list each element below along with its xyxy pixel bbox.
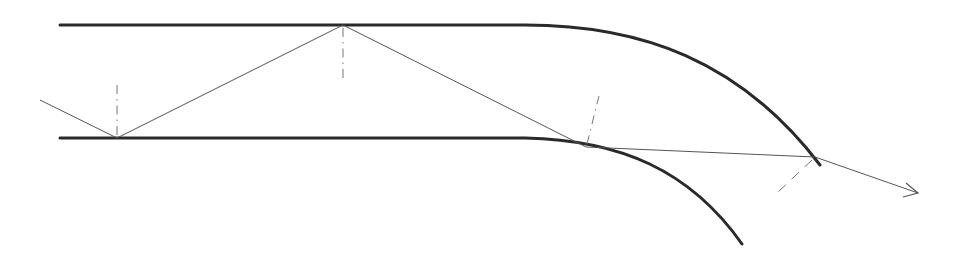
waveguide-diagram xyxy=(0,0,964,258)
bottom-wall xyxy=(60,138,742,244)
light-ray xyxy=(40,25,918,193)
top-wall xyxy=(60,25,820,165)
normal-line-4 xyxy=(778,160,812,192)
normal-line-3 xyxy=(587,96,599,144)
